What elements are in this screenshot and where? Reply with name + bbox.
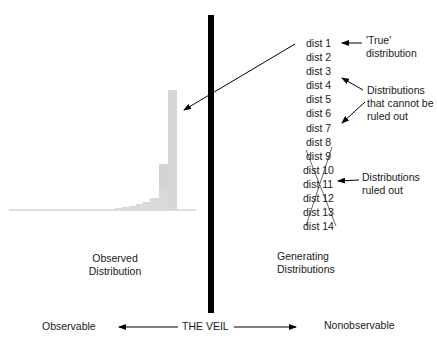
caption-line: Distributions — [277, 263, 335, 276]
list-item: dist 13 — [303, 205, 334, 219]
list-item: dist 10 — [303, 163, 334, 177]
caption-line: Observed — [80, 252, 150, 265]
annotation-line: distribution — [366, 47, 417, 60]
list-item: dist 2 — [306, 50, 334, 64]
ruled-out-arrow — [338, 180, 359, 181]
annotation-line: ruled out — [367, 110, 434, 123]
annotation-line: Distributions — [362, 171, 420, 184]
list-item: dist 11 — [303, 177, 334, 191]
list-item: dist 4 — [306, 78, 334, 92]
generating-distributions-list: dist 1 dist 2 dist 3 dist 4 dist 5 dist … — [306, 36, 334, 233]
notruled-arrow-down — [342, 102, 365, 123]
caption-line: Generating — [277, 250, 335, 263]
notruled-arrow-up — [342, 78, 363, 90]
list-item: dist 7 — [306, 121, 334, 135]
observed-distribution-caption: Observed Distribution — [80, 252, 150, 278]
annotation-line: Distributions — [367, 84, 434, 97]
generating-distributions-caption: Generating Distributions — [277, 250, 335, 276]
veil-bar — [208, 15, 214, 313]
annotation-line: that cannot be — [367, 97, 434, 110]
not-ruled-out-label: Distributions that cannot be ruled out — [367, 84, 434, 123]
list-item: dist 5 — [306, 92, 334, 106]
annotation-line: 'True' — [366, 34, 417, 47]
list-item: dist 3 — [306, 64, 334, 78]
caption-line: Distribution — [80, 265, 150, 278]
list-item: dist 14 — [303, 219, 334, 233]
list-item: dist 6 — [306, 106, 334, 120]
list-item: dist 8 — [306, 135, 334, 149]
observed-histogram — [108, 90, 177, 210]
ruled-out-label: Distributions ruled out — [362, 171, 420, 197]
veil-label: THE VEIL — [182, 320, 229, 333]
annotation-line: ruled out — [362, 184, 420, 197]
list-item: dist 9 — [306, 149, 334, 163]
true-distribution-arrow — [184, 44, 295, 110]
observable-label: Observable — [42, 320, 96, 333]
list-item: dist 12 — [303, 191, 334, 205]
list-item: dist 1 — [306, 36, 334, 50]
nonobservable-label: Nonobservable — [324, 319, 395, 332]
true-distribution-label: 'True' distribution — [366, 34, 417, 60]
